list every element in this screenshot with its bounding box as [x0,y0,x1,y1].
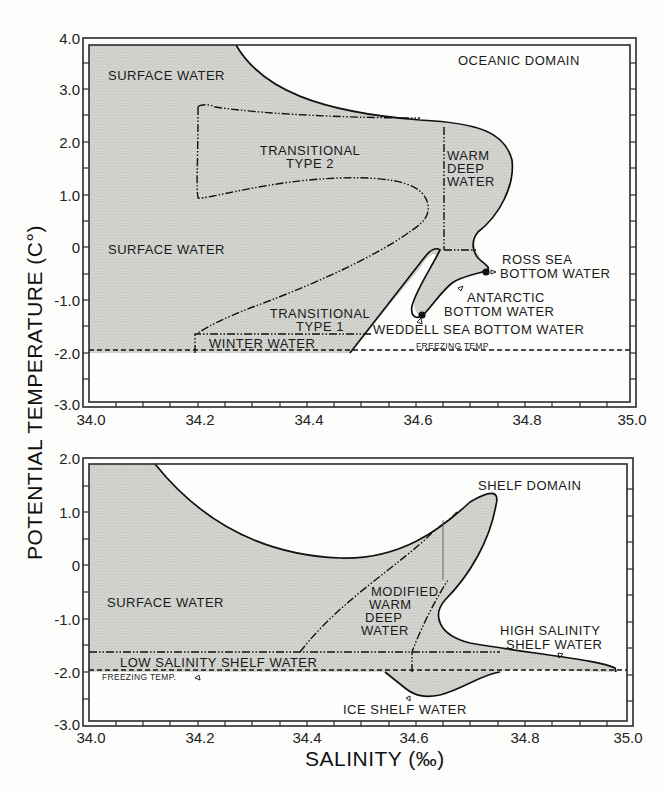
bottom-y-tick-neg2: -2.0 [54,664,80,681]
top-x-tick-34.2: 34.2 [185,411,214,428]
label-freezing-temp-bottom: FREEZING TEMP. [102,672,176,682]
bottom-panel-shelf-domain: 2.0 1.0 0 -1.0 -2.0 -3.0 34.0 34.2 34.4 … [54,450,642,746]
top-y-tick-3: 3.0 [59,81,80,98]
x-axis-title: SALINITY (‰) [305,747,445,770]
isw-arrow-icon [406,696,410,701]
label-antarctic-bottom-l1: ANTARCTIC [467,290,545,305]
antarctic-arrow-icon [458,286,463,291]
bottom-y-tick-0: 0 [72,557,80,574]
ross-arrow-icon [491,270,496,274]
top-y-tick-4: 4.0 [59,30,80,47]
top-x-tick-34.4: 34.4 [294,411,323,428]
label-surface-water-shelf: SURFACE WATER [107,595,224,610]
freezing-arrow-icon [195,675,200,680]
label-antarctic-bottom-l2: BOTTOM WATER [444,304,554,319]
bottom-x-tick-34.6: 34.6 [399,729,428,746]
label-surface-water-lower: SURFACE WATER [108,242,225,257]
bottom-y-tick-1: 1.0 [59,504,80,521]
label-hssw-l2: SHELF WATER [506,637,603,652]
top-x-tick-34.0: 34.0 [76,411,105,428]
bottom-x-tick-34.4: 34.4 [292,729,321,746]
top-x-tick-34.8: 34.8 [512,411,541,428]
y-axis-title: POTENTIAL TEMPERATURE (C°) [23,225,46,560]
label-winter-water: WINTER WATER [209,336,315,351]
label-surface-water-upper: SURFACE WATER [108,68,225,83]
top-x-tick-35.0: 35.0 [617,411,646,428]
bottom-y-tick-neg1: -1.0 [54,611,80,628]
label-low-salinity-shelf-water: LOW SALINITY SHELF WATER [120,655,317,670]
bottom-x-tick-35.0: 35.0 [613,729,642,746]
label-ice-shelf-water: ICE SHELF WATER [343,702,467,717]
label-weddell-sea-bottom-water: WEDDELL SEA BOTTOM WATER [373,322,584,337]
bottom-x-tick-34.2: 34.2 [185,729,214,746]
top-y-tick-neg1: -1.0 [54,292,80,309]
ts-diagram-figure: 4.0 3.0 2.0 1.0 0 -1.0 -2.0 -3.0 34.0 34… [0,0,663,794]
top-y-tick-neg2: -2.0 [54,345,80,362]
ross-sea-point [482,268,489,275]
bottom-y-tick-2: 2.0 [59,450,80,467]
top-y-tick-2: 2.0 [59,134,80,151]
weddell-sea-point [418,311,425,318]
top-y-tick-1: 1.0 [59,187,80,204]
label-ross-sea-l2: BOTTOM WATER [500,266,610,281]
label-transitional-type1-l2: TYPE 1 [296,319,344,334]
label-oceanic-domain: OCEANIC DOMAIN [458,53,580,68]
label-shelf-domain: SHELF DOMAIN [478,478,582,493]
bottom-x-tick-34.0: 34.0 [76,729,105,746]
label-hssw-l1: HIGH SALINITY [500,623,600,638]
label-ross-sea-l1: ROSS SEA [502,252,572,267]
label-freezing-temp-top: FREEZING TEMP [416,341,489,351]
bottom-x-tick-34.8: 34.8 [510,729,539,746]
top-panel-oceanic-domain: 4.0 3.0 2.0 1.0 0 -1.0 -2.0 -3.0 34.0 34… [54,30,646,428]
top-x-tick-34.6: 34.6 [403,411,432,428]
label-mwdw-l4: WATER [361,623,409,638]
label-transitional-type2-l2: TYPE 2 [286,156,334,171]
top-y-tick-0: 0 [72,239,80,256]
label-warm-deep-water-l3: WATER [447,174,495,189]
